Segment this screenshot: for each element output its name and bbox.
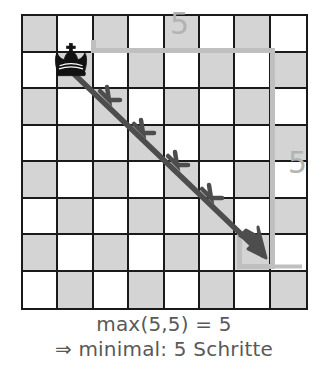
board-cell [235,235,270,272]
board-cell [271,272,306,309]
board-cell [200,89,235,126]
board-cell [58,162,93,199]
board-cell [165,89,200,126]
board-cell [200,272,235,309]
board-cell [129,126,164,163]
board-cell [58,199,93,236]
board-cell [23,235,58,272]
board-cell [165,53,200,90]
board-cell [271,16,306,53]
vertical-distance-label: 5 [288,148,307,178]
board-cell [129,16,164,53]
board-cell [165,235,200,272]
board-cell [235,199,270,236]
board-cell [129,89,164,126]
board-cell [58,89,93,126]
board-cell [94,89,129,126]
board-cell [200,53,235,90]
caption-block: max(5,5) = 5 ⇒ minimal: 5 Schritte [0,312,328,362]
board-cell [58,126,93,163]
board-cell [23,272,58,309]
board-cell [129,235,164,272]
board-cell [94,126,129,163]
board-cell [94,162,129,199]
board-cell [200,235,235,272]
board-cell [23,199,58,236]
board-cell [235,126,270,163]
piece-cross-horizontal [67,46,76,48]
board-cell [271,89,306,126]
queen-crown-piece [52,42,90,80]
board-cell [129,272,164,309]
board-cell [165,272,200,309]
board-cell [129,199,164,236]
board-cell [94,199,129,236]
board-cell [200,162,235,199]
horizontal-distance-label: 5 [170,9,189,39]
board-cell [271,53,306,90]
board-cell [200,16,235,53]
caption-conclusion-line: ⇒ minimal: 5 Schritte [0,337,328,362]
board-cell [271,199,306,236]
board-cell [165,126,200,163]
board-cell [94,272,129,309]
board-cell [235,89,270,126]
board-cell [23,126,58,163]
board-cell [94,53,129,90]
board-cell [58,235,93,272]
board-cell [23,162,58,199]
board-cell [235,272,270,309]
board-cell [165,199,200,236]
board-cell [235,53,270,90]
board-cell [94,16,129,53]
board-cell [129,53,164,90]
board-cell [94,235,129,272]
board-cell [271,235,306,272]
board-cell [58,272,93,309]
board-cell [235,16,270,53]
caption-formula-line: max(5,5) = 5 [0,312,328,337]
piece-base [57,72,86,76]
board-cell [200,199,235,236]
board-cell [23,89,58,126]
board-cell [165,162,200,199]
chessboard-distance-figure: 5 5 max(5,5) = 5 ⇒ minimal: 5 Schritte [0,0,328,380]
board-cell [200,126,235,163]
board-cell [129,162,164,199]
board-cell [235,162,270,199]
